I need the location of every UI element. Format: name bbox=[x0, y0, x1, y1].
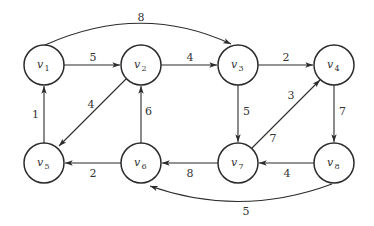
svg-text:2: 2 bbox=[141, 64, 146, 73]
edge-v2-v5 bbox=[59, 79, 126, 146]
weight-v7-v4-lower: 7 bbox=[270, 132, 277, 145]
weight-v8-v7: 4 bbox=[284, 167, 291, 180]
svg-text:8: 8 bbox=[334, 162, 339, 171]
weight-v1-v3: 8 bbox=[138, 11, 145, 24]
nodes: v 1 v 2 v 3 v 4 v 5 v 6 v bbox=[24, 45, 354, 183]
svg-text:v: v bbox=[231, 156, 238, 169]
svg-text:7: 7 bbox=[238, 162, 243, 171]
node-v7: v 7 bbox=[218, 143, 258, 183]
node-v3: v 3 bbox=[218, 45, 258, 85]
weight-v2-v3: 4 bbox=[187, 51, 194, 64]
weight-v1-v2: 5 bbox=[90, 51, 97, 64]
node-v8: v 8 bbox=[314, 143, 354, 183]
graph-diagram: 5 8 4 4 2 5 7 1 6 2 8 3 7 bbox=[0, 0, 374, 226]
edge-v1-v3 bbox=[45, 23, 231, 45]
svg-text:4: 4 bbox=[334, 64, 339, 73]
weight-v7-v4-upper: 3 bbox=[288, 89, 295, 102]
edges: 5 8 4 4 2 5 7 1 6 2 8 3 7 bbox=[32, 11, 346, 218]
weight-v2-v5: 4 bbox=[88, 98, 95, 111]
weight-v3-v4: 2 bbox=[283, 51, 290, 64]
edge-v8-v6 bbox=[150, 184, 332, 202]
weight-v6-v2: 6 bbox=[145, 105, 152, 118]
node-v2: v 2 bbox=[121, 45, 161, 85]
svg-text:v: v bbox=[327, 58, 334, 71]
svg-text:v: v bbox=[231, 58, 238, 71]
weight-v3-v7: 5 bbox=[243, 105, 250, 118]
weight-v4-v8: 7 bbox=[339, 105, 346, 118]
edge-v7-v4 bbox=[252, 80, 320, 148]
node-v5: v 5 bbox=[24, 143, 64, 183]
svg-text:v: v bbox=[134, 58, 141, 71]
svg-text:v: v bbox=[37, 156, 44, 169]
weight-v5-v1: 1 bbox=[32, 108, 39, 121]
weight-v6-v5: 2 bbox=[90, 167, 97, 180]
node-v1: v 1 bbox=[24, 45, 64, 85]
svg-text:5: 5 bbox=[44, 162, 49, 171]
svg-text:3: 3 bbox=[238, 64, 243, 73]
svg-text:6: 6 bbox=[141, 162, 146, 171]
svg-text:v: v bbox=[134, 156, 141, 169]
svg-text:v: v bbox=[327, 156, 334, 169]
weight-v8-v6: 5 bbox=[243, 205, 250, 218]
node-v6: v 6 bbox=[121, 143, 161, 183]
node-v4: v 4 bbox=[314, 45, 354, 85]
svg-text:v: v bbox=[37, 58, 44, 71]
weight-v7-v6: 8 bbox=[187, 167, 194, 180]
svg-text:1: 1 bbox=[44, 64, 49, 73]
